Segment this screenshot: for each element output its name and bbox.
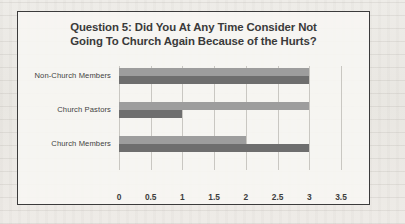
x-tick-label: 1 [180,192,185,202]
x-axis-tick-labels: 00.511.522.533.5 [119,192,341,204]
x-tick-label: 3.5 [335,192,347,202]
bar [119,144,309,152]
category-axis-labels: Non-Church MembersChurch PastorsChurch M… [18,66,115,170]
bar [119,76,309,84]
plot-area [119,66,341,170]
x-tick-label: 2.5 [272,192,284,202]
bar [119,102,309,110]
category-label: Church Pastors [57,105,111,114]
x-tick-label: 2 [244,192,249,202]
category-label: Non-Church Members [35,71,112,80]
x-tick-label: 0.5 [145,192,157,202]
bar [119,68,309,76]
chart-inner: Question 5: Did You At Any Time Consider… [18,12,369,204]
chart-frame: Question 5: Did You At Any Time Consider… [17,11,370,205]
bar [119,110,182,118]
bar-group [119,136,341,154]
x-tick-label: 1.5 [208,192,220,202]
bar-group [119,68,341,86]
bar [119,136,246,144]
x-tick-label: 3 [307,192,312,202]
x-tick-label: 0 [117,192,122,202]
chart-title: Question 5: Did You At Any Time Consider… [26,20,361,49]
bar-series-container [119,66,341,170]
bar-group [119,102,341,120]
gridline-3-5 [341,66,342,170]
category-label: Church Members [51,139,111,148]
